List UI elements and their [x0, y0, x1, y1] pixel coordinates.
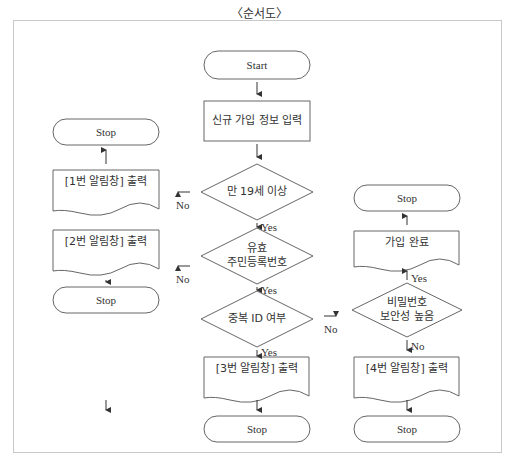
start-label: Start	[204, 58, 310, 72]
diagram-title: 〈순서도〉	[231, 4, 288, 21]
edge-pw-no: No	[411, 339, 424, 353]
join-complete-label: 가입 완료	[354, 236, 460, 250]
edge-age-no: No	[176, 198, 189, 212]
edge-pw-yes: Yes	[411, 271, 427, 285]
age-check-label: 만 19세 이상	[201, 185, 313, 199]
stop-label-right-top: Stop	[354, 191, 460, 205]
resident-check-label-1: 유효	[201, 242, 313, 256]
edge-resident-no: No	[176, 272, 189, 286]
input-label: 신규 가입 정보 입력	[204, 114, 310, 128]
stop-label-right-bottom: Stop	[354, 422, 460, 436]
alert1-label: [1번 알림창] 출력	[53, 175, 159, 189]
alert2-label: [2번 알림창] 출력	[53, 235, 159, 249]
edge-dup-no: No	[324, 322, 337, 336]
stop-label-left-top: Stop	[53, 125, 159, 139]
stop-label-left-bottom: Stop	[53, 293, 159, 307]
edge-resident-yes: Yes	[261, 283, 277, 297]
dup-id-label: 중복 ID 여부	[201, 312, 313, 326]
edge-dup-yes: Yes	[261, 345, 277, 359]
pw-check-label-1: 비밀번호	[352, 296, 462, 310]
stop-label-center: Stop	[204, 422, 310, 436]
alert4-label: [4번 알림창] 출력	[354, 362, 460, 376]
edge-age-yes: Yes	[261, 220, 277, 234]
alert3-label: [3번 알림창] 출력	[204, 362, 310, 376]
resident-check-label-2: 주민등록번호	[201, 256, 313, 270]
pw-check-label-2: 보안성 높음	[352, 310, 462, 324]
